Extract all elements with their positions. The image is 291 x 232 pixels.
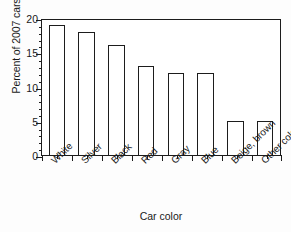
bar-slot bbox=[131, 20, 161, 155]
bar bbox=[138, 66, 155, 155]
bar-slot bbox=[102, 20, 132, 155]
bar bbox=[78, 32, 95, 155]
y-axis-minor-tick bbox=[39, 102, 43, 103]
plot-area bbox=[41, 19, 281, 156]
bar-slot bbox=[221, 20, 251, 155]
y-axis-minor-tick bbox=[39, 143, 43, 144]
bar-series bbox=[42, 20, 280, 155]
bar-chart-figure: Percent of 2007 cars 05101520 WhiteSilve… bbox=[0, 0, 291, 232]
bar bbox=[168, 73, 185, 155]
bar bbox=[108, 45, 125, 155]
bar-slot bbox=[42, 20, 72, 155]
y-axis-minor-tick bbox=[39, 61, 43, 62]
y-axis-tick-label: 5 bbox=[20, 117, 38, 128]
y-axis-major-tick bbox=[36, 89, 42, 90]
bar-slot bbox=[72, 20, 102, 155]
x-axis-title: Car color bbox=[41, 210, 281, 222]
y-axis-minor-tick bbox=[39, 116, 43, 117]
x-axis-category-labels: WhiteSilverBlackRedGrayBlueBeige, brownO… bbox=[41, 158, 281, 206]
y-axis-minor-tick bbox=[39, 82, 43, 83]
y-axis-tick-label: 10 bbox=[20, 82, 38, 93]
y-axis-minor-tick bbox=[39, 47, 43, 48]
y-axis-minor-tick bbox=[39, 68, 43, 69]
y-axis-minor-tick bbox=[39, 27, 43, 28]
bar-slot bbox=[191, 20, 221, 155]
y-axis-major-tick bbox=[36, 54, 42, 55]
y-axis-tick-label: 0 bbox=[20, 151, 38, 162]
y-axis-major-tick bbox=[36, 20, 42, 21]
y-axis-minor-tick bbox=[39, 41, 43, 42]
y-axis-major-tick bbox=[36, 123, 42, 124]
y-axis-minor-tick bbox=[39, 109, 43, 110]
y-axis-minor-tick bbox=[39, 136, 43, 137]
y-axis-minor-tick bbox=[39, 75, 43, 76]
y-axis-minor-tick bbox=[39, 150, 43, 151]
bar-slot bbox=[161, 20, 191, 155]
y-axis-tick-labels: 05101520 bbox=[20, 14, 38, 156]
y-axis-tick-label: 15 bbox=[20, 48, 38, 59]
y-axis-tick-label: 20 bbox=[20, 14, 38, 25]
bar bbox=[197, 73, 214, 155]
y-axis-minor-tick bbox=[39, 95, 43, 96]
bar bbox=[49, 25, 66, 155]
y-axis-minor-tick bbox=[39, 130, 43, 131]
y-axis-minor-tick bbox=[39, 34, 43, 35]
